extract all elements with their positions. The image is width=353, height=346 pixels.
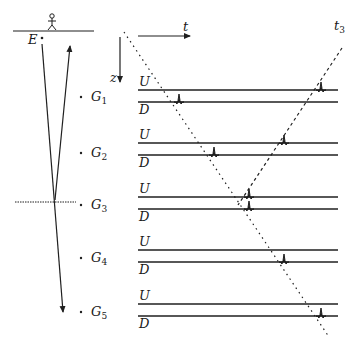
upgoing-wave-line [238,48,342,205]
vsp-diagram: E G1 G2 G3 G4 G5 t z t3 U D U D U D U D [0,0,353,346]
trace-lines [138,90,338,316]
time-axis-label: t [183,19,189,34]
svg-text:D: D [138,102,150,117]
svg-text:U: U [139,181,151,196]
wavelets [174,82,326,318]
person-icon [48,14,56,30]
svg-text:G3: G3 [91,197,107,214]
svg-text:U: U [139,234,151,249]
receiver-labels: G1 G2 G3 G4 G5 [80,89,108,321]
downgoing-wave-line [124,32,329,337]
depth-axis-label: z [109,70,117,85]
source-label: E [27,32,38,47]
downgoing-ray-arrow [42,44,63,312]
svg-text:D: D [138,209,150,224]
svg-text:U: U [139,288,151,303]
svg-text:G2: G2 [91,145,107,162]
source-dot [41,37,44,40]
svg-text:D: D [138,262,150,277]
svg-text:G5: G5 [91,304,107,321]
svg-text:D: D [138,316,150,331]
svg-text:G1: G1 [91,89,107,106]
arrival-time-label: t3 [334,18,345,35]
svg-text:D: D [138,155,150,170]
svg-text:U: U [139,127,151,142]
upgoing-ray-arrow [55,46,70,200]
svg-text:U: U [139,74,151,89]
trace-labels: U D U D U D U D U D [138,74,151,331]
svg-text:G4: G4 [91,250,107,267]
